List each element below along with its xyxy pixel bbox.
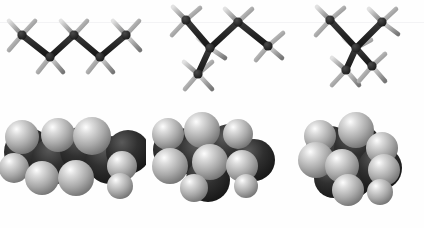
molecule-figure [0,0,424,228]
space-filling-gauche [146,104,288,228]
space-filling-gauche-gauche [288,104,424,228]
gauche-space-filling-svg [146,104,288,228]
space-filling-anti [0,104,146,228]
ball-and-stick-gauche [146,0,288,104]
anti-ball-stick-svg [0,0,146,104]
ball-and-stick-anti [0,0,146,104]
gauche-gauche-ball-stick-svg [288,0,424,104]
anti-space-filling-svg [0,104,146,228]
gauche-ball-stick-svg [146,0,288,104]
hydrogen-spheres [152,112,258,202]
ball-and-stick-gauche-gauche [288,0,424,104]
hydrogen-rods [9,21,140,72]
hydrogen-spheres [298,112,400,206]
carbon-carbon-bonds [186,20,268,74]
gauche-gauche-space-filling-svg [288,104,424,228]
